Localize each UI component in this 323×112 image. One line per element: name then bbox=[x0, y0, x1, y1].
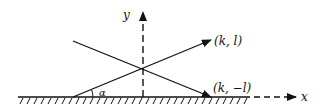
angle-alpha-label: α bbox=[99, 87, 106, 98]
x-axis-label: x bbox=[301, 90, 308, 104]
angle-arc bbox=[92, 90, 94, 97]
vector-k-minus-l-label: (k, −l) bbox=[213, 81, 251, 95]
boundary-hatching bbox=[20, 98, 247, 104]
vector-k-l-label: (k, l) bbox=[214, 34, 242, 48]
diagram-canvas: y x (k, l) (k, −l) α bbox=[0, 0, 323, 112]
wave-reflection-diagram: y x (k, l) (k, −l) α bbox=[0, 0, 323, 112]
y-axis-label: y bbox=[122, 8, 130, 22]
